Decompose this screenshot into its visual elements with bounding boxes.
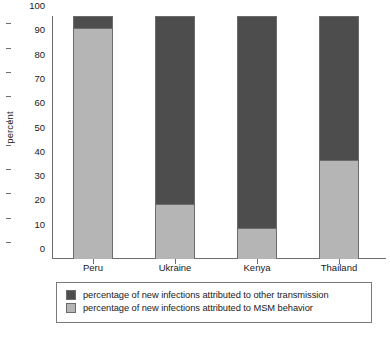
- bar-segment-other-transmission[interactable]: [74, 17, 112, 29]
- bar-slot: [216, 16, 298, 259]
- y-axis-tick-label: 0: [11, 243, 52, 254]
- x-axis-category-label: Ukraine: [134, 262, 216, 273]
- y-axis-tick-label: 10: [11, 218, 52, 229]
- bar-segment-other-transmission[interactable]: [320, 17, 358, 161]
- y-axis-tick-mark: [6, 218, 11, 219]
- y-axis-tick-mark: [6, 48, 11, 49]
- bar-segment-other-transmission[interactable]: [238, 17, 276, 229]
- y-axis-tick-label: 100: [11, 0, 52, 11]
- legend-item-msm-behavior: percentage of new infections attributed …: [66, 303, 362, 313]
- legend-label-msm-behavior: percentage of new infections attributed …: [83, 303, 313, 313]
- y-axis-tick-mark: [6, 23, 11, 24]
- legend-swatch-dark-icon: [66, 290, 76, 300]
- y-axis-tick-mark: [6, 169, 11, 170]
- bar-slot: [134, 16, 216, 259]
- x-axis-category-label: Peru: [52, 262, 134, 273]
- plot-area: 1009080706050403020100: [52, 16, 380, 259]
- legend-item-other-transmission: percentage of new infections attributed …: [66, 290, 362, 300]
- chart-legend: percentage of new infections attributed …: [56, 282, 372, 323]
- stacked-bar-chart: percent 1009080706050403020100 PeruUkrai…: [0, 0, 390, 337]
- y-axis-tick-label: 60: [11, 97, 52, 108]
- bar-segment-msm-behavior[interactable]: [156, 205, 194, 259]
- y-axis-tick-label: 50: [11, 121, 52, 132]
- bar-segment-msm-behavior[interactable]: [320, 161, 358, 259]
- y-axis-tick-mark: [6, 193, 11, 194]
- bar-slot: [298, 16, 380, 259]
- bar-segment-msm-behavior[interactable]: [74, 29, 112, 259]
- stacked-bar[interactable]: [155, 16, 195, 259]
- y-axis-tick-label: 30: [11, 170, 52, 181]
- y-axis-tick-label: 90: [11, 24, 52, 35]
- y-axis-tick-label: 70: [11, 72, 52, 83]
- y-axis-tick-mark: [6, 72, 11, 73]
- y-axis-tick-label: 40: [11, 145, 52, 156]
- x-axis-category-label: Thailand: [298, 262, 380, 273]
- x-axis-category-label: Kenya: [216, 262, 298, 273]
- y-axis-tick-mark: [6, 145, 11, 146]
- legend-swatch-light-icon: [66, 303, 76, 313]
- stacked-bar[interactable]: [73, 16, 113, 259]
- bar-slot: [52, 16, 134, 259]
- y-axis-tick-label: 80: [11, 48, 52, 59]
- bar-segment-other-transmission[interactable]: [156, 17, 194, 205]
- y-axis-tick-mark: [6, 242, 11, 243]
- legend-label-other-transmission: percentage of new infections attributed …: [83, 290, 329, 300]
- bar-group: [52, 16, 380, 259]
- stacked-bar[interactable]: [319, 16, 359, 259]
- bar-segment-msm-behavior[interactable]: [238, 229, 276, 259]
- x-axis-labels: PeruUkraineKenyaThailand: [52, 262, 380, 273]
- y-axis-tick-mark: [6, 96, 11, 97]
- stacked-bar[interactable]: [237, 16, 277, 259]
- y-axis-tick-label: 20: [11, 194, 52, 205]
- y-axis-tick-mark: [6, 121, 11, 122]
